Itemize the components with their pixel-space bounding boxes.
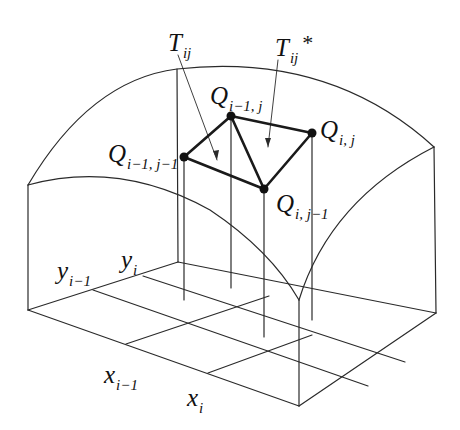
- back-wall-base-right: [178, 262, 436, 313]
- label-q-i-j: Qi, j: [320, 117, 355, 142]
- label-q-im1-j: Qi−1, j: [210, 83, 263, 108]
- grid-line-x-im1: [126, 296, 269, 344]
- label-y-i: yi: [121, 247, 137, 272]
- label-y-im1: yi−1: [57, 258, 91, 283]
- point-q-im1-jm1: [180, 153, 189, 162]
- base-right-edge: [299, 313, 436, 406]
- arrow-t-ij-star: [268, 60, 278, 147]
- label-x-i: xi: [187, 385, 203, 410]
- surface-diagram: [0, 0, 460, 430]
- top-right-front-curve: [299, 147, 434, 300]
- base-front-edge: [28, 310, 299, 406]
- right-vertical-edge: [434, 147, 436, 313]
- label-t-ij: Tij: [168, 30, 191, 55]
- label-x-im1: xi−1: [104, 362, 138, 387]
- point-q-i-jm1: [260, 185, 269, 194]
- base-left-edge: [28, 262, 178, 310]
- arrowhead-t-ij-star: [265, 138, 271, 147]
- label-t-ij-star: Tij*: [275, 35, 313, 60]
- triangle-t-ij-star: [231, 116, 312, 189]
- label-q-i-jm1: Qi, j−1: [276, 191, 329, 216]
- label-q-im1-jm1: Qi−1, j−1: [108, 141, 178, 166]
- point-q-i-j: [308, 129, 317, 138]
- grid-line-x-i: [208, 335, 312, 373]
- triangle-t-ij: [184, 116, 264, 189]
- diagram-canvas: Tij Tij* Qi−1, j Qi, j Qi−1, j−1 Qi, j−1…: [0, 0, 460, 430]
